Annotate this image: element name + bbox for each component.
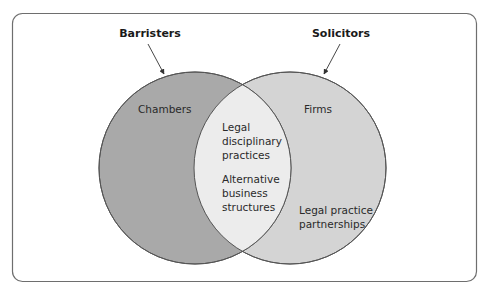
venn-diagram: Barristers Solicitors Chambers Firms Leg…	[0, 0, 484, 293]
solicitors-title: Solicitors	[312, 27, 371, 40]
firms-label: Firms	[304, 103, 332, 115]
chambers-label: Chambers	[138, 103, 192, 115]
barristers-title: Barristers	[119, 27, 181, 40]
